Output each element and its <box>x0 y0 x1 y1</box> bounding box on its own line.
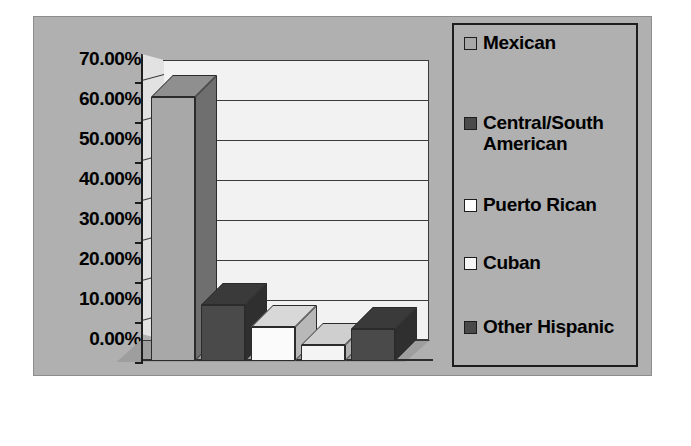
y-tick-label: 70.00% <box>33 49 141 68</box>
legend-item-label: Other Hispanic <box>483 317 614 338</box>
bar-2 <box>201 305 245 361</box>
y-tick-mark <box>135 282 143 284</box>
legend-item-5[interactable]: Other Hispanic <box>464 317 632 338</box>
legend-item-4[interactable]: Cuban <box>464 253 632 274</box>
y-axis-labels: 70.00% 60.00% 50.00% 40.00% 30.00% 20.00… <box>33 58 141 358</box>
y-tick-label: 40.00% <box>33 169 141 188</box>
bar-front-face <box>151 97 195 361</box>
legend-swatch-icon <box>464 199 477 212</box>
chart-screenshot: 70.00% 60.00% 50.00% 40.00% 30.00% 20.00… <box>0 0 691 446</box>
y-tick-label: 20.00% <box>33 249 141 268</box>
legend-item-label: Mexican <box>483 33 556 54</box>
legend-item-label: Puerto Rican <box>483 195 597 216</box>
y-tick-label: 50.00% <box>33 129 141 148</box>
bar-4 <box>301 345 345 361</box>
legend-item-3[interactable]: Puerto Rican <box>464 195 632 216</box>
bar-front-face <box>351 329 395 361</box>
y-tick-label: 10.00% <box>33 289 141 308</box>
legend-items: MexicanCentral/South AmericanPuerto Rica… <box>454 25 636 365</box>
legend-item-label: Cuban <box>483 253 541 274</box>
y-tick-mark <box>135 202 143 204</box>
bar-front-face <box>201 305 245 361</box>
y-tick-mark <box>135 162 143 164</box>
bar-1 <box>151 97 195 361</box>
legend-item-1[interactable]: Mexican <box>464 33 632 54</box>
y-tick-mark <box>135 362 143 364</box>
y-axis-line <box>141 57 143 363</box>
plot-area <box>141 60 433 362</box>
legend-item-2[interactable]: Central/South American <box>464 113 632 154</box>
y-tick-mark <box>135 242 143 244</box>
legend-swatch-icon <box>464 321 477 334</box>
y-tick-mark <box>135 82 143 84</box>
gridline <box>163 60 429 61</box>
y-tick-label: 60.00% <box>33 89 141 108</box>
legend-swatch-icon <box>464 257 477 270</box>
legend-swatch-icon <box>464 37 477 50</box>
y-tick-label: 30.00% <box>33 209 141 228</box>
legend: MexicanCentral/South AmericanPuerto Rica… <box>452 23 638 367</box>
legend-item-label: Central/South American <box>483 113 632 154</box>
legend-swatch-icon <box>464 117 477 130</box>
bar-front-face <box>251 327 295 361</box>
y-tick-label: 0.00% <box>33 329 141 348</box>
bar-front-face <box>301 345 345 361</box>
y-tick-mark <box>135 322 143 324</box>
bar-3 <box>251 327 295 361</box>
bar-5 <box>351 329 395 361</box>
y-tick-mark <box>135 122 143 124</box>
